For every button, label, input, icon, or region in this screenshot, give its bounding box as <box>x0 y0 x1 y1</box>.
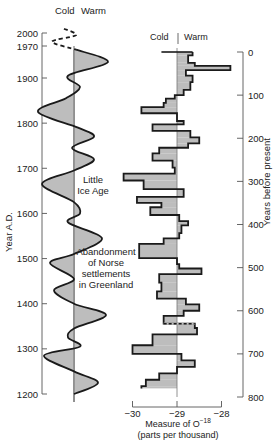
histogram-bar <box>177 304 199 310</box>
histogram-bar <box>124 174 177 181</box>
left-tick-label: 1500 <box>17 253 38 264</box>
left-header-warm: Warm <box>81 5 106 16</box>
wave-dashed-recent <box>52 29 76 50</box>
x-tick-label: −29 <box>169 408 185 419</box>
annotation-norse-abandonment: settlements <box>82 268 131 279</box>
left-tick-label: 1800 <box>17 118 38 129</box>
histogram-bar <box>137 197 177 203</box>
histogram-bar <box>146 380 177 386</box>
histogram-bar <box>177 189 184 197</box>
right-tick-label: 500 <box>248 262 264 273</box>
histogram-bar <box>153 153 177 160</box>
right-header-warm: Warm <box>184 32 208 42</box>
left-panel: Cold Warm 200019701900180017001600150014… <box>3 5 136 402</box>
histogram-bar <box>161 203 177 207</box>
left-tick-label: 1200 <box>17 389 38 400</box>
histogram-bar <box>141 107 177 113</box>
histogram-bar <box>133 345 178 354</box>
oxygen-histogram <box>124 48 231 397</box>
left-tick-label: 1300 <box>17 343 38 354</box>
histogram-bar <box>177 137 199 143</box>
right-tick-label: 600 <box>248 305 264 316</box>
right-ylabel: Years before present <box>261 138 272 226</box>
histogram-bar <box>177 76 193 82</box>
temperature-wave <box>38 29 108 402</box>
histogram-bar <box>177 55 188 62</box>
right-tick-label: 100 <box>248 90 264 101</box>
x-tick-label: −28 <box>213 408 229 419</box>
histogram-bar <box>177 328 197 334</box>
left-ylabel: Year A.D. <box>3 212 14 252</box>
wave-fill <box>38 50 108 394</box>
left-tick-label: 1700 <box>17 163 38 174</box>
histogram-bar <box>150 207 177 215</box>
oxygen-x-axis: −30−29−28 <box>124 401 229 419</box>
left-tick-label: 1400 <box>17 298 38 309</box>
histogram-bar <box>157 291 177 298</box>
annotation-little-ice-age: Little <box>83 174 103 185</box>
histogram-bar <box>153 124 177 130</box>
histogram-bar <box>144 181 177 190</box>
x-axis-label: Measure of O−18 <box>145 417 211 429</box>
x-axis-sublabel: (parts per thousand) <box>137 430 218 440</box>
annotation-norse-abandonment: of Norse <box>88 257 124 268</box>
histogram-bar <box>159 373 177 379</box>
histogram-bar <box>177 360 195 366</box>
histogram-bar <box>159 274 177 283</box>
left-header-cold: Cold <box>55 5 75 16</box>
annotation-little-ice-age: Ice Age <box>77 185 109 196</box>
right-panel: Cold Warm 0100200300400500600700800 Year… <box>124 32 272 440</box>
left-year-axis: 2000197019001800170016001500140013001200 <box>17 28 47 400</box>
left-tick-label: 1900 <box>17 73 38 84</box>
paleoclimate-figure: Cold Warm 200019701900180017001600150014… <box>0 0 280 442</box>
x-axis-label-main: Measure of O <box>145 419 200 429</box>
histogram-bar <box>164 316 177 324</box>
right-years-axis: 0100200300400500600700800 <box>237 47 264 403</box>
right-header-cold: Cold <box>150 32 169 42</box>
x-tick-label: −30 <box>124 408 140 419</box>
x-axis-label-sup: −18 <box>200 417 211 424</box>
histogram-bar <box>177 82 190 90</box>
right-tick-label: 800 <box>248 392 264 403</box>
histogram-bar <box>161 283 177 292</box>
histogram-bar <box>139 244 177 258</box>
left-tick-label: 2000 <box>17 28 38 39</box>
histogram-bar <box>177 70 186 76</box>
annotation-norse-abandonment: in Greenland <box>79 279 133 290</box>
right-tick-label: 0 <box>248 47 253 58</box>
histogram-bar <box>153 334 177 345</box>
right-tick-label: 700 <box>248 348 264 359</box>
left-tick-label: 1600 <box>17 208 38 219</box>
left-tick-label: 1970 <box>17 41 38 52</box>
annotation-norse-abandonment: Abandonment <box>76 246 136 257</box>
histogram-bar <box>177 131 190 137</box>
